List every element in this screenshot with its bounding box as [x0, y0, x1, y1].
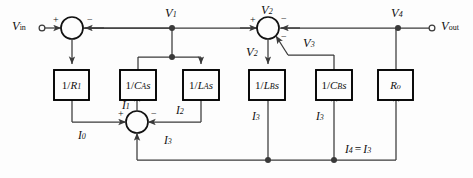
- summing-junction-current-circle: [126, 111, 148, 133]
- sign-sum-current-minus: −: [151, 108, 157, 119]
- summing-junction-v2-label: V2: [261, 4, 273, 17]
- block-label-inv-cbs: 1/CBs: [316, 70, 352, 100]
- signal-label-v3: V3: [303, 37, 315, 50]
- signal-label-i4-eq-i3: I4=I3: [345, 143, 371, 155]
- signal-label-i3-cb: I3: [316, 110, 324, 122]
- sign-sum-v2-minus-upper: −: [281, 13, 287, 24]
- summing-junction-v2-output-label: V2: [246, 46, 258, 59]
- output-terminal-label: Vout: [441, 20, 459, 33]
- block-label-inv-cas: 1/CAs: [120, 70, 156, 100]
- block-label-inv-lbs: 1/LBs: [249, 70, 285, 100]
- sign-sum1-minus: −: [87, 14, 93, 25]
- input-terminal-label: Vin: [12, 20, 26, 33]
- block-label-inv-r1: 1/R1: [54, 70, 89, 100]
- sign-sum1-plus: +: [53, 14, 59, 25]
- input-terminal-circle: [39, 25, 45, 31]
- summing-junction-v2-circle: [257, 17, 279, 39]
- output-terminal-circle: [429, 25, 435, 31]
- sign-sum-v2-minus-lower: −: [281, 31, 287, 42]
- block-rectangles: [54, 70, 413, 100]
- block-label-ro: Ro: [378, 70, 413, 100]
- signal-label-i0: I0: [78, 129, 86, 141]
- node-label-v4: V4: [391, 7, 403, 20]
- node-label-v1: V1: [165, 7, 177, 20]
- block-label-inv-las: 1/LAs: [183, 70, 219, 100]
- sign-sum-v2-plus: +: [250, 14, 256, 25]
- block-diagram: Vin Vout V1 V4 V2 V2 V3 + − + − − + − 1/…: [0, 0, 473, 178]
- signal-label-i1: I1: [122, 99, 130, 111]
- signal-label-i2: I2: [176, 104, 184, 116]
- signal-label-i3-lb: I3: [252, 110, 260, 122]
- signal-label-i3-junction: I3: [164, 134, 172, 146]
- summing-junction-input-circle: [61, 17, 83, 39]
